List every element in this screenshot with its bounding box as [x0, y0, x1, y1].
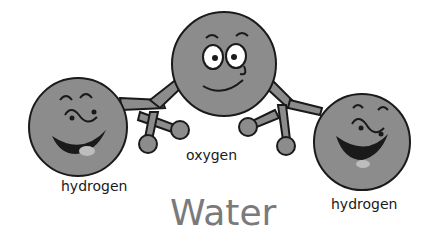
hydrogen-left-label: hydrogen	[61, 178, 127, 194]
oxygen-label: oxygen	[186, 147, 237, 163]
hydrogen-atom-left	[29, 78, 127, 176]
diagram-title: Water	[170, 192, 276, 233]
oxygen-atom	[172, 12, 276, 116]
hydrogen-atom-right	[314, 94, 410, 190]
hydrogen-right-label: hydrogen	[331, 196, 397, 212]
